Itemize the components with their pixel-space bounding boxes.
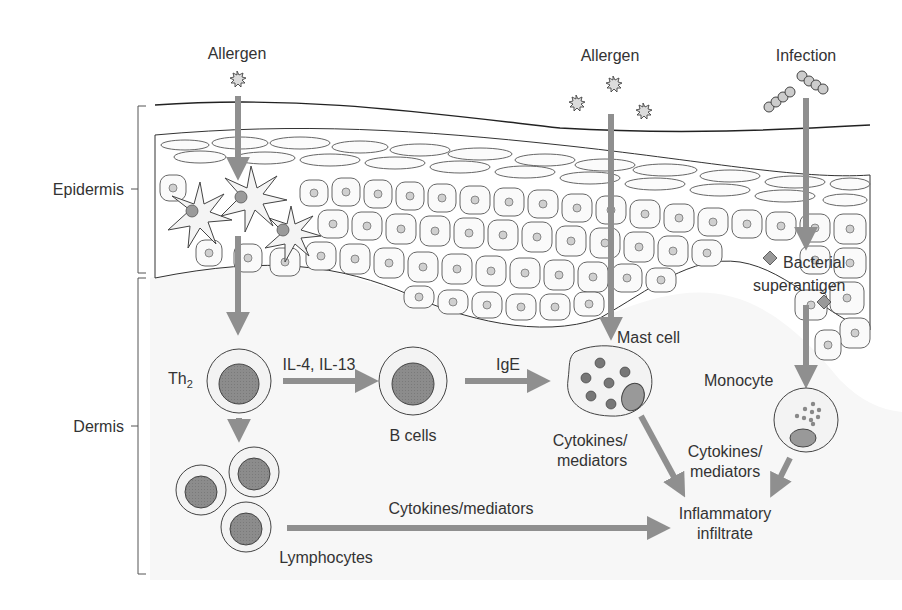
mast-cytokines-line2: mediators xyxy=(557,452,627,470)
monocyte-cell xyxy=(774,388,838,452)
lymphocyte-3 xyxy=(221,502,271,552)
superantigen-label-line2: superantigen xyxy=(753,277,846,295)
allergen-right-label: Allergen xyxy=(581,47,640,65)
infection-label: Infection xyxy=(776,47,836,65)
monocyte-cytokines-line2: mediators xyxy=(690,463,760,481)
mast-cell-label: Mast cell xyxy=(617,329,680,347)
monocyte-cytokines-line1: Cytokines/ xyxy=(688,443,763,461)
th2-label-subscript: 2 xyxy=(187,378,193,390)
il4-il13-label: IL-4, IL-13 xyxy=(283,356,356,374)
lymphocyte-1 xyxy=(176,465,226,515)
superantigen-label-line1: Bacterial xyxy=(783,254,845,272)
epidermis-label: Epidermis xyxy=(53,181,124,199)
lymphocyte-2 xyxy=(229,447,279,497)
bacteria-icons xyxy=(764,71,828,112)
dermis-label: Dermis xyxy=(73,418,124,436)
th2-cell xyxy=(207,349,271,413)
inflammatory-label-line1: Inflammatory xyxy=(679,505,771,523)
lymphocytes-label: Lymphocytes xyxy=(279,549,373,567)
layer-bracket xyxy=(131,106,146,574)
skin-surface-line xyxy=(155,102,870,131)
b-cells-label: B cells xyxy=(389,427,436,445)
th2-label: Th2 xyxy=(168,370,193,393)
diagram-canvas: Epidermis Dermis Allergen Allergen Infec… xyxy=(0,0,902,610)
inflammatory-label-line2: infiltrate xyxy=(697,525,753,543)
allergen-left-label: Allergen xyxy=(208,45,267,63)
monocyte-label: Monocyte xyxy=(704,372,773,390)
th2-label-main: Th xyxy=(168,370,187,387)
ige-label: IgE xyxy=(496,356,520,374)
lymph-cytokines-label: Cytokines/mediators xyxy=(389,500,534,518)
mast-cytokines-line1: Cytokines/ xyxy=(553,432,628,450)
b-cell xyxy=(379,347,447,415)
allergen-icons xyxy=(230,71,652,119)
mast-cell xyxy=(568,346,652,416)
